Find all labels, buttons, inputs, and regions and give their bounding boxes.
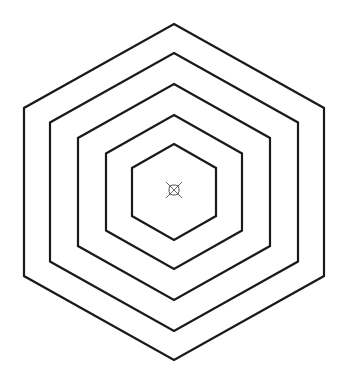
circle-x-marker-icon — [166, 182, 182, 198]
hexagon-1-outer — [24, 24, 324, 360]
hexagon-2 — [50, 53, 298, 331]
hexagon-5-inner — [132, 144, 216, 240]
concentric-hexagons — [24, 24, 324, 360]
hexagon-4 — [106, 115, 242, 269]
hexagon-diagram — [0, 0, 343, 378]
